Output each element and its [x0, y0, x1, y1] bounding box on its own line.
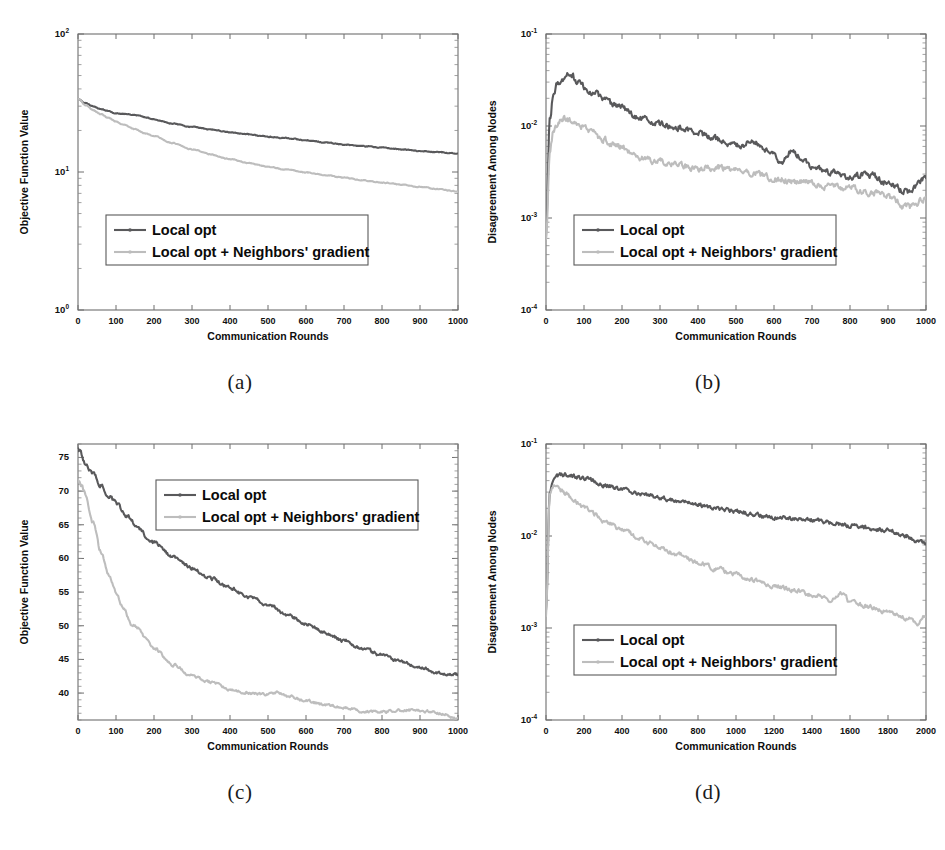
x-tick-label: 300 [184, 726, 199, 736]
subplot-b: 0100200300400500600700800900100010-410-3… [478, 18, 938, 368]
x-axis-label: Communication Rounds [675, 740, 796, 752]
x-tick-label: 1000 [916, 316, 936, 326]
subplot-d: 020040060080010001200140016001800200010-… [478, 428, 938, 778]
legend: Local optLocal opt + Neighbors' gradient [156, 480, 420, 530]
x-tick-label: 0 [75, 316, 80, 326]
x-tick-label: 700 [336, 316, 351, 326]
y-tick-label: 60 [58, 552, 69, 563]
x-tick-label: 1600 [840, 726, 860, 736]
x-axis-label: Communication Rounds [675, 330, 796, 342]
legend-label: Local opt [620, 222, 685, 238]
subplot-c: 0100200300400500600700800900100040455055… [10, 428, 470, 778]
legend-item-local-opt-neighbors: Local opt + Neighbors' gradient [164, 509, 420, 525]
legend-label: Local opt [620, 632, 685, 648]
legend-marker-icon [596, 638, 600, 642]
y-tick-label: 40 [58, 687, 69, 698]
x-tick-label: 400 [614, 726, 629, 736]
x-tick-label: 1000 [726, 726, 746, 736]
x-tick-label: 1000 [448, 726, 468, 736]
x-tick-label: 800 [690, 726, 705, 736]
y-tick-label: 10-4 [521, 713, 538, 725]
y-tick-label: 102 [55, 27, 70, 39]
legend-marker-icon [596, 660, 600, 664]
y-tick-label: 10-4 [521, 303, 538, 315]
series-line-local-opt [546, 473, 926, 610]
x-tick-label: 500 [728, 316, 743, 326]
series-line-local-opt-neighbors [78, 98, 458, 192]
x-tick-label: 900 [412, 726, 427, 736]
legend-marker-icon [596, 228, 600, 232]
plot-frame [546, 34, 926, 310]
x-tick-label: 300 [184, 316, 199, 326]
x-tick-label: 900 [412, 316, 427, 326]
x-tick-label: 100 [108, 316, 123, 326]
legend-marker-icon [596, 250, 600, 254]
legend-item-local-opt-neighbors: Local opt + Neighbors' gradient [582, 654, 838, 670]
x-tick-label: 800 [374, 726, 389, 736]
y-tick-label: 10-3 [521, 621, 538, 633]
y-tick-label: 65 [58, 519, 69, 530]
figure-four-panel-convergence: 0100200300400500600700800900100010010110… [0, 0, 945, 850]
legend: Local optLocal opt + Neighbors' gradient [574, 625, 838, 675]
y-tick-label: 75 [58, 451, 69, 462]
subplot-c-caption: (c) [10, 780, 470, 805]
x-tick-label: 200 [146, 316, 161, 326]
series-line-local-opt [78, 99, 458, 154]
x-tick-label: 800 [842, 316, 857, 326]
x-tick-label: 0 [543, 316, 548, 326]
x-tick-label: 200 [614, 316, 629, 326]
plot-frame [78, 34, 458, 310]
x-tick-label: 500 [260, 316, 275, 326]
x-tick-label: 400 [222, 316, 237, 326]
x-tick-label: 200 [146, 726, 161, 736]
y-tick-label: 70 [58, 485, 69, 496]
x-tick-label: 100 [576, 316, 591, 326]
subplot-a: 0100200300400500600700800900100010010110… [10, 18, 470, 368]
y-tick-label: 10-2 [521, 529, 538, 541]
x-tick-label: 700 [804, 316, 819, 326]
x-tick-label: 500 [260, 726, 275, 736]
legend-label: Local opt [152, 222, 217, 238]
legend-label: Local opt + Neighbors' gradient [620, 654, 838, 670]
y-axis-label: Disagreement Among Nodes [486, 100, 498, 243]
y-tick-label: 101 [55, 165, 70, 177]
y-tick-label: 55 [58, 586, 69, 597]
x-tick-label: 400 [222, 726, 237, 736]
series-line-local-opt [546, 73, 926, 234]
x-tick-label: 300 [652, 316, 667, 326]
x-tick-label: 1200 [764, 726, 784, 736]
legend-marker-icon [178, 515, 182, 519]
legend-label: Local opt + Neighbors' gradient [152, 244, 370, 260]
x-tick-label: 1800 [878, 726, 898, 736]
x-tick-label: 1000 [448, 316, 468, 326]
subplot-b-caption: (b) [478, 370, 938, 395]
chart-d: 020040060080010001200140016001800200010-… [478, 428, 938, 778]
legend-marker-icon [128, 250, 132, 254]
legend: Local optLocal opt + Neighbors' gradient [574, 215, 838, 265]
y-axis-label: Disagreement Among Nodes [486, 510, 498, 653]
legend: Local optLocal opt + Neighbors' gradient [106, 215, 370, 265]
series-line-local-opt-neighbors [546, 485, 926, 625]
x-tick-label: 0 [75, 726, 80, 736]
x-tick-label: 1400 [802, 726, 822, 736]
legend-marker-icon [178, 493, 182, 497]
x-tick-label: 600 [766, 316, 781, 326]
subplot-a-caption: (a) [10, 370, 470, 395]
x-tick-label: 600 [652, 726, 667, 736]
legend-label: Local opt + Neighbors' gradient [620, 244, 838, 260]
legend-label: Local opt + Neighbors' gradient [202, 509, 420, 525]
x-tick-label: 0 [543, 726, 548, 736]
y-axis-label: Objective Function Value [18, 519, 30, 644]
x-tick-label: 800 [374, 316, 389, 326]
x-tick-label: 100 [108, 726, 123, 736]
y-axis-label: Objective Function Value [18, 109, 30, 234]
x-tick-label: 400 [690, 316, 705, 326]
legend-marker-icon [128, 228, 132, 232]
x-axis-label: Communication Rounds [207, 740, 328, 752]
y-tick-label: 10-2 [521, 119, 538, 131]
y-tick-label: 10-3 [521, 211, 538, 223]
chart-c: 0100200300400500600700800900100040455055… [10, 428, 470, 778]
y-tick-label: 100 [55, 303, 70, 315]
x-tick-label: 600 [298, 726, 313, 736]
x-axis-label: Communication Rounds [207, 330, 328, 342]
